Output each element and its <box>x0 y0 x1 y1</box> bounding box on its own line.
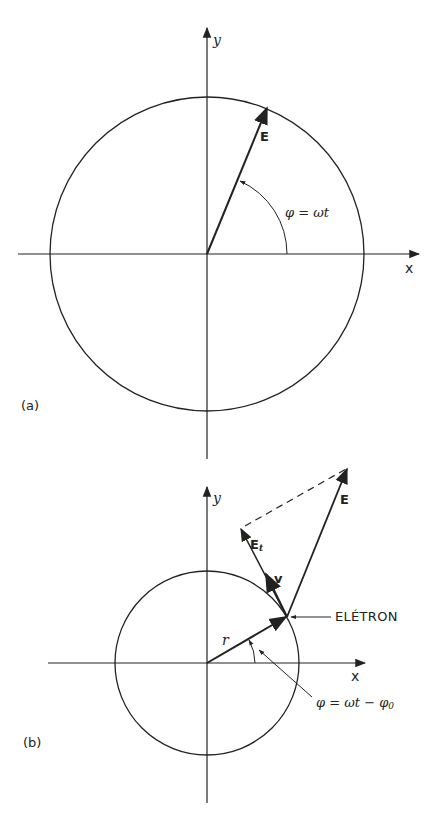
panel-a-tag: (a) <box>21 399 39 412</box>
panel-b-r-vector <box>207 617 286 663</box>
panel-b-et-sub: t <box>259 543 263 553</box>
panel-b <box>48 469 365 803</box>
panel-b-angle-arc <box>249 640 255 663</box>
panel-b-angle-label: φ = ωt − φ0 <box>316 696 394 711</box>
panel-b-x-label: x <box>351 669 359 683</box>
panel-b-dashed-line <box>245 469 346 526</box>
panel-a <box>18 28 419 459</box>
panel-b-angle-main: φ = ωt − φ <box>316 695 388 710</box>
panel-b-e-label: E <box>340 493 349 506</box>
panel-a-e-vector <box>207 108 267 254</box>
panel-b-electron-label: ELÉTRON <box>335 610 398 623</box>
panel-b-angle-sub: 0 <box>388 701 394 711</box>
panel-a-y-label: y <box>213 33 221 47</box>
panel-b-angle-leader <box>259 650 312 697</box>
panel-b-tag: (b) <box>23 736 41 749</box>
panel-b-et-main: E <box>250 537 259 552</box>
panel-a-angle-arc <box>240 181 287 254</box>
panel-b-et-label: Et <box>250 538 263 553</box>
panel-a-x-label: x <box>405 261 413 275</box>
panel-a-e-label: E <box>260 130 269 143</box>
panel-a-angle-label: φ = ωt <box>285 206 329 219</box>
panel-b-v-label: v <box>274 572 282 585</box>
panel-b-e-vector <box>287 469 347 617</box>
panel-b-r-label: r <box>222 633 229 647</box>
panel-b-y-label: y <box>213 491 221 505</box>
